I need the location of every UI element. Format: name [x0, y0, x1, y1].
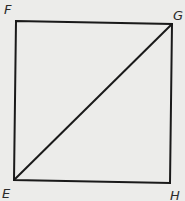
diagram-svg: F G E H	[0, 0, 185, 201]
diagonal-eg	[14, 24, 172, 180]
vertex-label-g: G	[173, 8, 183, 23]
square-diagram: F G E H	[0, 0, 185, 201]
vertex-label-f: F	[4, 2, 12, 17]
vertex-label-h: H	[170, 188, 180, 201]
vertex-label-e: E	[2, 186, 11, 201]
